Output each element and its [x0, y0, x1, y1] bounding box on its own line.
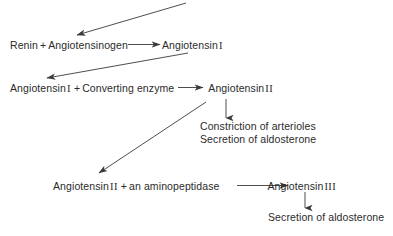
row3-plus: +	[119, 180, 129, 192]
arrow-angiotensin-i-to-row2	[47, 53, 188, 78]
row1-roman-numeral: I	[218, 40, 224, 51]
row3-right-roman-numeral: III	[323, 181, 337, 192]
node-row3: AngiotensinII+an aminopeptidaseAngiotens…	[53, 180, 337, 193]
row2-converting-enzyme-label: Converting enzyme	[82, 82, 174, 94]
feedback-arrow-to-renin	[77, 3, 186, 35]
row2-right-roman-numeral: II	[264, 83, 274, 94]
node-final-effect: Secretion of aldosterone	[268, 211, 384, 224]
row2-plus: +	[72, 82, 82, 94]
node-row2: AngiotensinI+Converting enzymeAngiotensi…	[10, 82, 274, 95]
row3-left-roman-numeral: II	[109, 181, 119, 192]
arrow-angiotensin-ii-to-row3	[99, 102, 206, 173]
row1-angiotensinogen-label: Angiotensinogen	[48, 39, 128, 51]
row2-angiotensin-label: Angiotensin	[10, 82, 66, 94]
row3-aminopeptidase-label: an aminopeptidase	[129, 180, 219, 192]
row1-angiotensin-label: Angiotensin	[162, 39, 218, 51]
row1-renin-label: Renin	[10, 39, 38, 51]
node-effects: Constriction of arterioles Secretion of …	[200, 120, 316, 146]
row3-angiotensin-label: Angiotensin	[53, 180, 109, 192]
renin-angiotensin-diagram: Renin+AngiotensinogenAngiotensinI Angiot…	[0, 0, 393, 236]
effect-constriction-of-arterioles: Constriction of arterioles	[200, 120, 316, 133]
node-row1: Renin+AngiotensinogenAngiotensinI	[10, 39, 224, 52]
arrow-layer	[0, 0, 393, 236]
row1-plus: +	[38, 39, 48, 51]
row2-left-roman-numeral: I	[66, 83, 72, 94]
final-effect-secretion-of-aldosterone: Secretion of aldosterone	[268, 211, 384, 223]
row3-angiotensin-right-label: Angiotensin	[267, 180, 323, 192]
effect-secretion-of-aldosterone: Secretion of aldosterone	[200, 133, 316, 146]
row2-angiotensin-right-label: Angiotensin	[208, 82, 264, 94]
